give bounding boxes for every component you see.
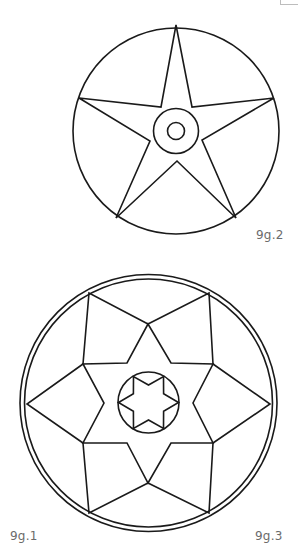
kite-outline	[83, 443, 148, 513]
kite-outline	[148, 443, 213, 513]
center-dot-circle	[168, 123, 185, 140]
kite-outline	[27, 364, 83, 443]
six-point-star	[83, 324, 213, 483]
mandala-diagrams	[0, 0, 298, 554]
figure-five-point-star	[73, 25, 279, 234]
center-circle	[154, 109, 199, 154]
small-six-point-star	[119, 377, 179, 429]
figure-six-point-star	[20, 275, 277, 532]
figure-label-9g3: 9g.3	[255, 529, 283, 543]
kite-outline	[83, 293, 148, 364]
outer-circle	[73, 28, 279, 234]
figure-label-9g2: 9g.2	[256, 228, 284, 242]
outer-ring-circle	[20, 275, 277, 532]
kite-outline	[148, 293, 213, 364]
kite-outline	[213, 364, 270, 443]
center-circle	[118, 372, 179, 433]
inner-ring-circle	[25, 279, 273, 527]
figure-label-9g1: 9g.1	[10, 529, 38, 543]
